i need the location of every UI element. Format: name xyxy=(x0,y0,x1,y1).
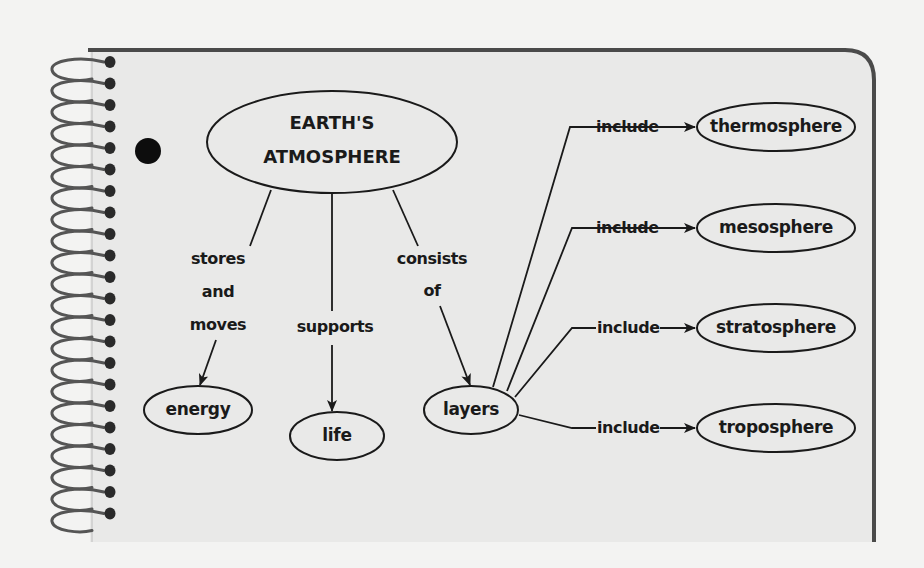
hole-punch-icon xyxy=(135,138,161,164)
binding-hole xyxy=(105,121,116,133)
binding-hole xyxy=(105,207,116,219)
svg-text:energy: energy xyxy=(166,399,231,419)
link-label-and: and xyxy=(202,282,234,301)
svg-text:thermosphere: thermosphere xyxy=(710,116,842,136)
link-label-include: include xyxy=(597,318,660,337)
binding-hole xyxy=(105,508,116,520)
binding-hole xyxy=(105,185,116,197)
binding-hole xyxy=(105,293,116,305)
binding-hole xyxy=(105,271,116,283)
notebook-concept-map: EARTH'S ATMOSPHERE stores and moves supp… xyxy=(0,0,924,568)
binding-hole xyxy=(105,250,116,262)
svg-text:mesosphere: mesosphere xyxy=(719,217,833,237)
link-label-supports: supports xyxy=(297,317,374,336)
binding-hole xyxy=(105,336,116,348)
binding-hole xyxy=(105,99,116,111)
binding-hole xyxy=(105,357,116,369)
binding-hole xyxy=(105,228,116,240)
svg-text:troposphere: troposphere xyxy=(719,417,834,437)
binding-hole xyxy=(105,422,116,434)
svg-text:stratosphere: stratosphere xyxy=(716,317,836,337)
binding-hole xyxy=(105,314,116,326)
binding-hole xyxy=(105,443,116,455)
link-label-include: include xyxy=(597,418,660,437)
link-label-of: of xyxy=(423,281,442,300)
svg-text:life: life xyxy=(322,425,351,445)
central-node-line2: ATMOSPHERE xyxy=(263,146,401,167)
binding-hole xyxy=(105,465,116,477)
link-label-stores: stores xyxy=(191,249,245,268)
link-label-moves: moves xyxy=(190,315,246,334)
binding-hole xyxy=(105,56,116,68)
binding-hole xyxy=(105,400,116,412)
binding-hole xyxy=(105,142,116,154)
binding-hole xyxy=(105,78,116,90)
binding-hole xyxy=(105,164,116,176)
binding-hole xyxy=(105,379,116,391)
central-node-line1: EARTH'S xyxy=(289,112,374,133)
binding-hole xyxy=(105,486,116,498)
link-label-include: include xyxy=(596,117,659,136)
link-label-include: include xyxy=(596,218,659,237)
svg-text:layers: layers xyxy=(443,399,499,419)
link-label-consists: consists xyxy=(397,249,467,268)
